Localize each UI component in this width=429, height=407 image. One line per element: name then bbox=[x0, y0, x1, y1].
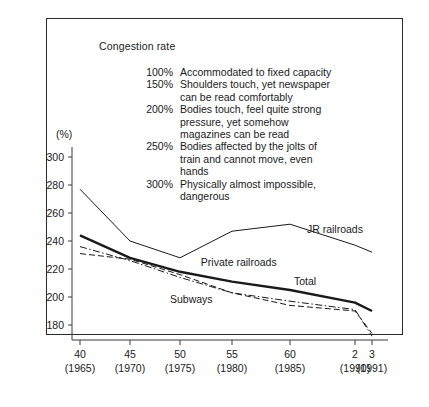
note-percent: 100% bbox=[140, 66, 173, 78]
x-tick-year-label: (1985) bbox=[275, 362, 305, 374]
y-tick-label: 200 bbox=[32, 291, 64, 303]
x-tick-year-label: (1991) bbox=[357, 362, 387, 374]
series-label: Subways bbox=[170, 293, 213, 305]
note-row: 100%Accommodated to fixed capacity bbox=[140, 66, 331, 78]
x-tick-label: 60 bbox=[284, 348, 296, 360]
note-description-line: Physically almost impossible, bbox=[180, 178, 331, 190]
x-tick-year-label: (1980) bbox=[217, 362, 247, 374]
note-description-line: Bodies affected by the jolts of bbox=[180, 140, 331, 152]
y-axis-unit-label: (%) bbox=[56, 128, 72, 140]
note-description-line: train and cannot move, even bbox=[180, 153, 331, 165]
note-description: Bodies touch, feel quite strongpressure,… bbox=[180, 103, 331, 140]
note-row: 200%Bodies touch, feel quite strongpress… bbox=[140, 103, 331, 140]
note-description-line: pressure, yet somehow bbox=[180, 116, 331, 128]
x-tick-label: 55 bbox=[226, 348, 238, 360]
x-tick-year-label: (1975) bbox=[165, 362, 195, 374]
note-description-line: dangerous bbox=[180, 190, 331, 202]
note-row: 250%Bodies affected by the jolts oftrain… bbox=[140, 140, 331, 177]
note-description: Bodies affected by the jolts oftrain and… bbox=[180, 140, 331, 177]
note-description-line: Accommodated to fixed capacity bbox=[180, 66, 331, 78]
y-tick-label: 220 bbox=[32, 263, 64, 275]
note-description: Physically almost impossible,dangerous bbox=[180, 178, 331, 203]
note-row: 150%Shoulders touch, yet newspapercan be… bbox=[140, 78, 331, 103]
x-tick-label: 40 bbox=[74, 348, 86, 360]
series-label: JR railroads bbox=[307, 223, 363, 235]
note-description-line: hands bbox=[180, 165, 331, 177]
congestion-rate-figure: Congestion rate 100%Accommodated to fixe… bbox=[0, 0, 429, 407]
y-tick-label: 180 bbox=[32, 319, 64, 331]
note-row: 300%Physically almost impossible,dangero… bbox=[140, 178, 331, 203]
x-tick-label: 2 bbox=[352, 348, 358, 360]
note-description: Accommodated to fixed capacity bbox=[180, 66, 331, 78]
note-percent: 200% bbox=[140, 103, 173, 115]
x-tick-label: 50 bbox=[174, 348, 186, 360]
note-description-line: can be read comfortably bbox=[180, 91, 331, 103]
congestion-rate-notes: 100%Accommodated to fixed capacity150%Sh… bbox=[140, 66, 331, 202]
y-tick-label: 260 bbox=[32, 207, 64, 219]
note-percent: 250% bbox=[140, 140, 173, 152]
series-label: Private railroads bbox=[201, 256, 277, 268]
note-description-line: Bodies touch, feel quite strong bbox=[180, 103, 331, 115]
x-tick-label: 3 bbox=[369, 348, 375, 360]
page-title: Congestion rate bbox=[99, 40, 175, 52]
y-tick-label: 300 bbox=[32, 151, 64, 163]
y-tick-label: 280 bbox=[32, 179, 64, 191]
note-percent: 150% bbox=[140, 78, 173, 90]
note-description-line: Shoulders touch, yet newspaper bbox=[180, 78, 331, 90]
x-tick-year-label: (1970) bbox=[115, 362, 145, 374]
y-tick-label: 240 bbox=[32, 235, 64, 247]
x-tick-year-label: (1965) bbox=[65, 362, 95, 374]
series-label: Total bbox=[294, 275, 316, 287]
note-description: Shoulders touch, yet newspapercan be rea… bbox=[180, 78, 331, 103]
note-percent: 300% bbox=[140, 178, 173, 190]
x-tick-label: 45 bbox=[124, 348, 136, 360]
note-description-line: magazines can be read bbox=[180, 128, 331, 140]
